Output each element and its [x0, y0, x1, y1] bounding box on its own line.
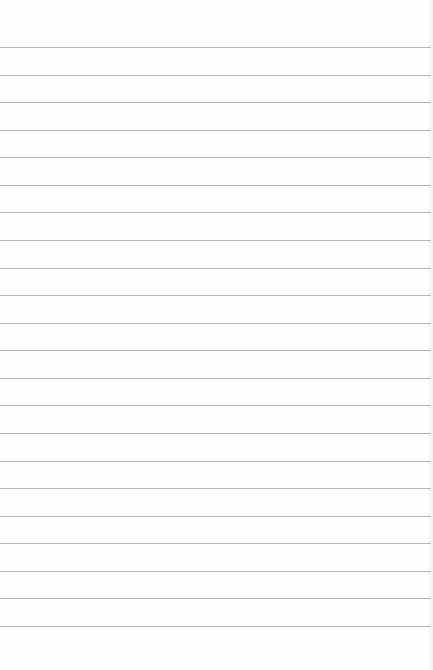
- ruled-line: [0, 626, 431, 627]
- ruled-line: [0, 405, 431, 406]
- ruled-line: [0, 488, 431, 489]
- ruled-line: [0, 212, 431, 213]
- ruled-line: [0, 295, 431, 296]
- ruled-line: [0, 543, 431, 544]
- ruled-line: [0, 47, 431, 48]
- ruled-line: [0, 240, 431, 241]
- paper-edge-shadow: [427, 0, 433, 670]
- lined-paper: [0, 0, 433, 670]
- ruled-line: [0, 75, 431, 76]
- ruled-line: [0, 461, 431, 462]
- ruled-line: [0, 157, 431, 158]
- ruled-line: [0, 350, 431, 351]
- ruled-line: [0, 433, 431, 434]
- ruled-line: [0, 130, 431, 131]
- ruled-line: [0, 268, 431, 269]
- ruled-line: [0, 598, 431, 599]
- ruled-line: [0, 378, 431, 379]
- ruled-line: [0, 516, 431, 517]
- ruled-line: [0, 185, 431, 186]
- ruled-line: [0, 102, 431, 103]
- ruled-line: [0, 323, 431, 324]
- ruled-line: [0, 571, 431, 572]
